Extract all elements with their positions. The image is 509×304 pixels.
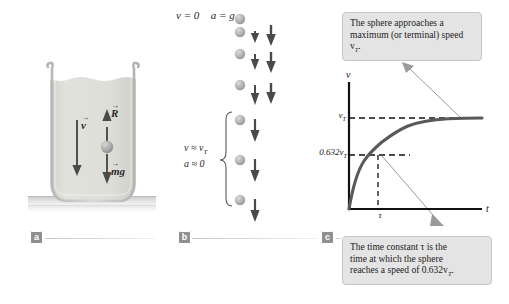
panel-c-badge: c: [321, 231, 334, 244]
sphere-5: [235, 115, 245, 125]
callout-time-constant-line3-wrap: reaches a speed of 0.632vT.: [350, 265, 484, 279]
y-axis-label: v: [346, 69, 350, 80]
gravity-arrow-2: [266, 25, 276, 46]
callout-time-constant-line1: The time constant τ is the: [350, 242, 484, 254]
sphere-1: [235, 14, 245, 24]
gravity-arrow-4: [266, 83, 276, 104]
y-tick-632: 0.632vT: [307, 147, 347, 159]
velocity-arrow-4: [251, 85, 259, 105]
panel-a-badge: a: [30, 231, 43, 244]
gravity-arrow-3: [266, 52, 276, 73]
physics-figure: → v → R → mg a v = 0 a = g v ≈ vT a ≈ 0: [0, 0, 509, 304]
velocity-vector-label: → v: [81, 116, 89, 131]
x-axis-label: t: [486, 203, 489, 214]
gravity-force-label: → mg: [111, 162, 125, 177]
panel-b: v = 0 a = g v ≈ vT a ≈ 0: [170, 0, 320, 230]
callout-time-constant-line2: time at which the sphere: [350, 254, 484, 266]
callout-time-constant-line3: reaches a speed of 0.632v: [350, 265, 448, 275]
sphere-4: [235, 80, 245, 90]
velocity-arrow-7: [250, 199, 259, 222]
panel-c: The sphere approaches a maximum (or term…: [320, 0, 509, 304]
panel-a-rule: [45, 238, 155, 239]
resistive-force-label: → R: [111, 104, 119, 119]
velocity-curve: [349, 118, 482, 209]
callout-time-constant-end: .: [451, 265, 453, 275]
falling-sphere: [101, 141, 113, 153]
callout-time-constant: The time constant τ is the time at which…: [342, 236, 492, 285]
sphere-6: [235, 155, 245, 165]
panel-b-badge: b: [178, 231, 191, 244]
liquid-fill: [50, 77, 136, 199]
panel-c-rule: [336, 238, 344, 239]
panel-b-rule: [192, 238, 317, 239]
beaker-graphic: [34, 55, 152, 210]
velocity-arrow-2: [251, 31, 259, 43]
x-tick-tau: τ: [374, 210, 386, 220]
velocity-arrow-3: [251, 54, 259, 70]
sphere-2: [235, 27, 245, 37]
panel-b-graphic: [170, 0, 320, 230]
terminal-region-brace: [220, 112, 232, 206]
sphere-7: [235, 195, 245, 205]
sphere-3: [235, 49, 245, 59]
y-tick-terminal-speed: vT: [326, 110, 346, 122]
velocity-arrow-6: [250, 159, 259, 182]
velocity-arrow-5: [250, 119, 259, 142]
